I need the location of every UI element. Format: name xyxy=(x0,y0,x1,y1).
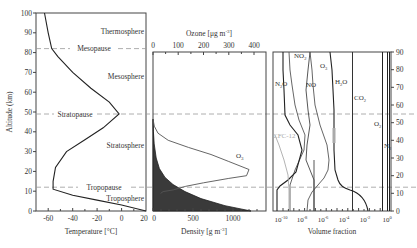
tick-label: 0 xyxy=(152,214,156,223)
tick-label: 10-2 xyxy=(360,215,371,224)
mesosphere-label: Mesosphere xyxy=(108,72,145,81)
tick-label: -20 xyxy=(92,214,102,223)
n2o-label: N2O xyxy=(275,80,287,89)
tick-label: 50 xyxy=(25,108,33,117)
tick-label: 10 xyxy=(396,189,404,198)
tick-label: 0 xyxy=(396,207,400,216)
tick-label: 10 xyxy=(25,187,33,196)
tick-label: 80 xyxy=(25,48,33,57)
tick-label: 10-6 xyxy=(318,215,329,224)
tick-label: 30 xyxy=(25,147,33,156)
no2-label: NO2 xyxy=(294,52,306,61)
tick-label: 0 xyxy=(28,207,32,216)
temperature-axis-label: Temperature [°C] xyxy=(65,227,118,236)
tick-label: 50 xyxy=(396,118,404,127)
tick-label: 20 xyxy=(25,167,33,176)
tick-label: 0 xyxy=(120,214,124,223)
tick-label: 10-4 xyxy=(339,215,350,224)
n2-label: N2 xyxy=(384,142,391,151)
tick-label: 10-8 xyxy=(297,215,308,224)
ozone-tick-labels: 0 100 200 300 400 xyxy=(151,41,260,50)
volume-fraction-panel: 0 10 20 30 40 50 60 70 80 90 10-10 10-8 xyxy=(273,48,404,237)
mesopause-label: Mesopause xyxy=(77,44,111,53)
tick-label: 100 xyxy=(382,215,392,224)
tick-label: 200 xyxy=(198,41,210,50)
tropopause-label: Tropopause xyxy=(86,183,122,192)
troposphere-label: Troposphere xyxy=(106,194,144,203)
tick-label: 20 xyxy=(140,214,148,223)
tick-label: 400 xyxy=(248,41,260,50)
o3-label: O3 xyxy=(320,62,328,71)
tick-label: 30 xyxy=(396,154,404,163)
h2o-band xyxy=(333,128,336,143)
tick-label: 300 xyxy=(223,41,235,50)
tick-label: 10-10 xyxy=(275,215,289,224)
ozone-axis-label: Ozone [μg m-3] xyxy=(186,29,232,38)
tick-label: 100 xyxy=(173,41,185,50)
tick-label: 500 xyxy=(187,214,199,223)
layer-boundaries xyxy=(36,49,417,188)
altitude-tick-labels: 0 10 20 30 40 50 60 70 80 90 100 xyxy=(21,9,33,216)
stratopause-label: Stratopause xyxy=(58,110,94,119)
o2-label: O2 xyxy=(374,120,381,129)
cfc12-label: CFC-12 xyxy=(273,132,296,140)
vf-tick-labels: 10-10 10-8 10-6 10-4 10-2 100 xyxy=(275,215,393,224)
h2o-label: H2O xyxy=(335,78,347,87)
tick-label: 90 xyxy=(25,28,33,37)
density-panel: O3 0 500 1000 Density [g m-3] 0 100 xyxy=(151,29,266,236)
tick-label: 70 xyxy=(25,68,33,77)
tick-label: 70 xyxy=(396,83,404,92)
no-label: NO xyxy=(306,81,316,89)
tick-label: 60 xyxy=(25,88,33,97)
tick-label: -40 xyxy=(68,214,78,223)
temperature-tick-labels: -60 -40 -20 0 20 xyxy=(43,214,148,223)
tick-label: 80 xyxy=(396,65,404,74)
co2-label: CO2 xyxy=(354,94,366,103)
atmosphere-figure: 0 10 20 30 40 50 60 70 80 90 100 Altitud… xyxy=(0,0,417,248)
density-axis-label: Density [g m-3] xyxy=(181,227,227,236)
tick-label: 1000 xyxy=(226,214,241,223)
tick-label: 100 xyxy=(21,9,33,18)
tick-label: 20 xyxy=(396,171,404,180)
vf-altitude-tick-labels: 0 10 20 30 40 50 60 70 80 90 xyxy=(396,48,404,216)
volume-fraction-axis-label: Volume fraction xyxy=(308,227,357,236)
thermosphere-label: Thermosphere xyxy=(101,27,145,36)
altitude-axis-label: Altitude (km) xyxy=(5,91,14,133)
air-density-area xyxy=(153,119,251,211)
stratosphere-label: Stratosphere xyxy=(107,141,145,150)
density-tick-labels: 0 500 1000 xyxy=(152,214,241,223)
tick-label: 60 xyxy=(396,101,404,110)
tick-label: 0 xyxy=(151,41,155,50)
tick-label: 40 xyxy=(396,136,404,145)
tick-label: 40 xyxy=(25,127,33,136)
tick-label: 90 xyxy=(396,48,404,57)
region-labels: Thermosphere Mesopause Mesosphere Strato… xyxy=(58,27,145,203)
ozone-curve-label: O3 xyxy=(236,152,244,161)
tick-label: -60 xyxy=(43,214,53,223)
